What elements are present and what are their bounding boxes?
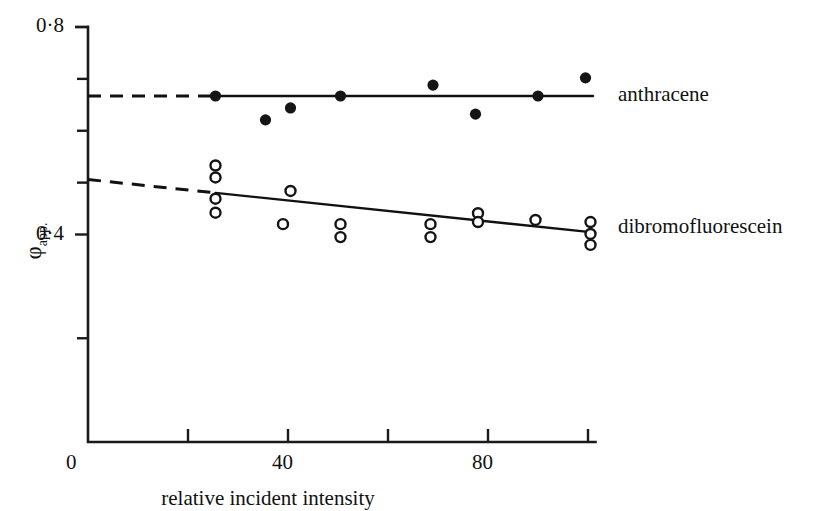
fit-line-dashed-dibromofluorescein <box>88 180 216 193</box>
x-tick-label-80: 80 <box>472 450 493 475</box>
data-point-dibromofluorescein-12 <box>531 215 541 225</box>
x-tick-label-40: 40 <box>272 450 293 475</box>
data-point-anthracene-1 <box>260 114 271 125</box>
data-point-anthracene-4 <box>427 80 438 91</box>
x-axis-title: relative incident intensity <box>161 486 374 511</box>
data-point-anthracene-5 <box>470 109 481 120</box>
data-point-dibromofluorescein-9 <box>426 232 436 242</box>
data-point-dibromofluorescein-6 <box>336 219 346 229</box>
data-point-dibromofluorescein-1 <box>211 172 221 182</box>
data-point-dibromofluorescein-8 <box>426 219 436 229</box>
data-point-dibromofluorescein-7 <box>336 232 346 242</box>
data-point-anthracene-7 <box>580 72 591 83</box>
data-point-dibromofluorescein-13 <box>586 217 596 227</box>
data-point-dibromofluorescein-4 <box>278 219 288 229</box>
data-point-dibromofluorescein-3 <box>211 208 221 218</box>
data-point-anthracene-6 <box>532 90 543 101</box>
data-point-dibromofluorescein-0 <box>211 161 221 171</box>
series-label-anthracene: anthracene <box>618 82 709 107</box>
data-point-anthracene-3 <box>335 90 346 101</box>
data-point-dibromofluorescein-11 <box>473 217 483 227</box>
fit-line-dibromofluorescein <box>216 193 594 233</box>
fit-lines-group <box>88 96 593 232</box>
chart-figure: 0·8 0·4 0 40 80 relative incident intens… <box>0 0 830 511</box>
series-label-dibromofluorescein: dibromofluorescein <box>618 214 782 239</box>
y-axis-title-base: φ <box>21 246 46 259</box>
data-point-dibromofluorescein-5 <box>286 186 296 196</box>
data-point-anthracene-0 <box>210 90 221 101</box>
data-point-dibromofluorescein-14 <box>586 229 596 239</box>
data-point-dibromofluorescein-15 <box>586 240 596 250</box>
data-points-group <box>210 72 596 250</box>
y-tick-label-0: 0 <box>66 450 77 475</box>
y-tick-label-0.8: 0·8 <box>36 13 64 38</box>
scatter-plot-canvas <box>0 0 830 511</box>
y-axis-title-subscript: app. <box>35 223 50 247</box>
data-point-anthracene-2 <box>285 102 296 113</box>
ticks-group <box>75 27 588 443</box>
data-point-dibromofluorescein-2 <box>211 194 221 204</box>
y-axis-title: φapp. <box>16 196 56 286</box>
